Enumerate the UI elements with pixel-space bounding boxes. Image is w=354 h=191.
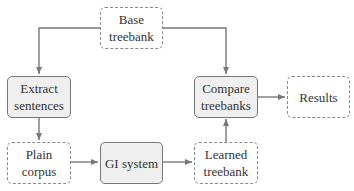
node-compare-treebanks: Comparetreebanks bbox=[194, 76, 258, 118]
node-plain-corpus: Plaincorpus bbox=[7, 142, 71, 184]
node-label: Extract bbox=[14, 80, 64, 97]
node-gi-system: GI system bbox=[100, 142, 163, 184]
node-label: GI system bbox=[105, 155, 158, 172]
node-base-treebank: Basetreebank bbox=[100, 7, 163, 49]
node-learned-treebank: Learnedtreebank bbox=[194, 142, 258, 184]
node-results: Results bbox=[287, 76, 350, 118]
edge-base-to-compare bbox=[163, 28, 226, 74]
node-extract-sentences: Extractsentences bbox=[7, 76, 71, 118]
node-label: sentences bbox=[14, 97, 64, 114]
node-label: treebank bbox=[204, 163, 249, 180]
node-label: treebank bbox=[109, 28, 154, 45]
node-label: Results bbox=[299, 89, 337, 106]
node-label: Compare bbox=[201, 80, 251, 97]
edge-base-to-extract bbox=[39, 28, 100, 74]
node-label: Plain bbox=[22, 146, 57, 163]
node-label: Learned bbox=[204, 146, 249, 163]
node-label: Base bbox=[109, 11, 154, 28]
node-label: treebanks bbox=[201, 97, 251, 114]
node-label: corpus bbox=[22, 163, 57, 180]
